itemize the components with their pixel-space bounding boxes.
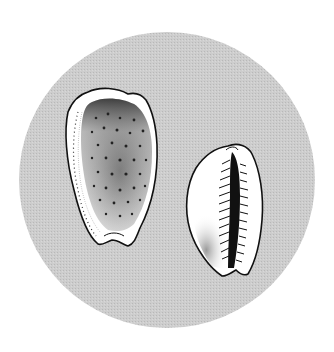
illustration: Two cowrie shells [0,0,334,352]
background-disc [19,32,315,328]
cowrie-illustration [0,0,334,352]
